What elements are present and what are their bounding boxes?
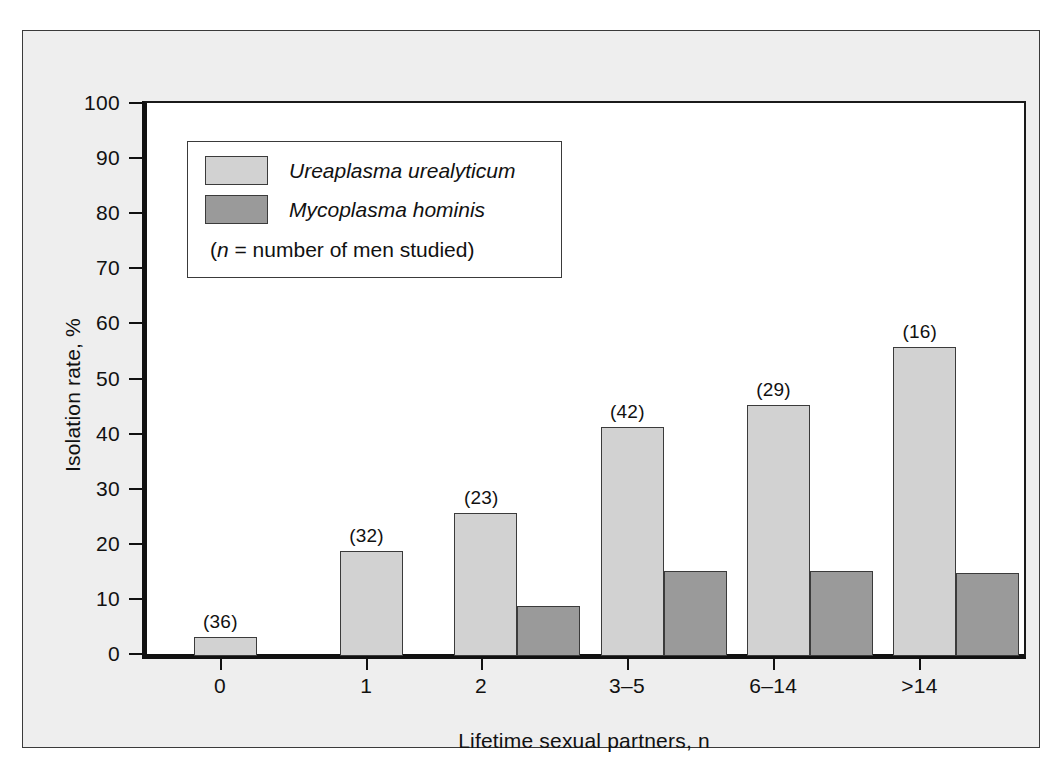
x-axis-title: Lifetime sexual partners, n (142, 729, 1026, 753)
x-axis-tick-mark (220, 659, 222, 670)
y-axis-tick: 40 (23, 421, 142, 447)
y-axis-tick-label: 30 (96, 477, 120, 501)
y-axis-tick-mark (129, 433, 142, 435)
bar-count-label: (42) (610, 401, 645, 423)
y-axis-tick: 90 (23, 145, 142, 171)
y-axis-tick-label: 0 (108, 642, 120, 666)
y-axis-tick-label: 100 (84, 91, 120, 115)
y-axis-tick-label: 10 (96, 587, 120, 611)
y-axis-tick-label: 90 (96, 146, 120, 170)
legend-note-suffix: = number of men studied) (229, 238, 475, 261)
bar-group: (29) (737, 105, 883, 656)
y-axis-ticks: 0102030405060708090100 (23, 101, 142, 659)
x-axis-tick-mark (366, 659, 368, 670)
bar-ureaplasma (601, 427, 664, 656)
y-axis-tick: 0 (23, 641, 142, 667)
y-axis-tick: 60 (23, 310, 142, 336)
bar-count-label: (36) (203, 611, 238, 633)
y-axis-tick: 80 (23, 200, 142, 226)
y-axis-tick: 20 (23, 531, 142, 557)
figure-container: Isolation rate, % 0102030405060708090100… (0, 0, 1064, 768)
y-axis-tick-mark (129, 378, 142, 380)
x-axis-tick-label: 2 (411, 674, 551, 698)
y-axis-tick-label: 40 (96, 422, 120, 446)
x-axis-tick-label: 0 (150, 674, 290, 698)
bar-count-label: (29) (756, 379, 791, 401)
bar-count-label: (16) (902, 321, 937, 343)
bar-ureaplasma (747, 405, 810, 656)
legend-note: (n = number of men studied) (210, 238, 474, 262)
x-axis-tick-label: >14 (849, 674, 989, 698)
y-axis-tick-mark (129, 653, 142, 655)
y-axis-tick-label: 80 (96, 201, 120, 225)
y-axis-tick-mark (129, 157, 142, 159)
bar-mycoplasma (810, 571, 873, 656)
y-axis-tick: 100 (23, 90, 142, 116)
x-axis-tick-label: 3–5 (557, 674, 697, 698)
bar-mycoplasma (956, 573, 1019, 656)
y-axis-tick-mark (129, 102, 142, 104)
y-axis-tick: 70 (23, 255, 142, 281)
bar-ureaplasma (194, 637, 257, 656)
bar-group: (16) (883, 105, 1029, 656)
x-axis-tick-mark (481, 659, 483, 670)
y-axis-tick-mark (129, 267, 142, 269)
legend-label-mycoplasma: Mycoplasma hominis (289, 198, 485, 222)
x-axis-tick-label: 6–14 (703, 674, 843, 698)
legend-row-0: Ureaplasma urealyticum (205, 156, 515, 185)
legend-label-ureaplasma: Ureaplasma urealyticum (289, 159, 515, 183)
y-axis-tick-label: 50 (96, 367, 120, 391)
y-axis-tick-label: 60 (96, 311, 120, 335)
x-axis-tick-mark (627, 659, 629, 670)
legend-swatch-ureaplasma (205, 156, 268, 185)
bar-ureaplasma (340, 551, 403, 656)
y-axis-tick-label: 20 (96, 532, 120, 556)
y-axis-tick-mark (129, 488, 142, 490)
y-axis-tick: 10 (23, 586, 142, 612)
y-axis-tick-mark (129, 543, 142, 545)
legend-row-1: Mycoplasma hominis (205, 195, 485, 224)
bar-count-label: (32) (349, 525, 384, 547)
legend-note-prefix: ( (210, 238, 217, 261)
bar-count-label: (23) (464, 487, 499, 509)
x-axis-tick-mark (919, 659, 921, 670)
y-axis-tick-label: 70 (96, 256, 120, 280)
x-axis-tick-mark (773, 659, 775, 670)
figure-frame: Isolation rate, % 0102030405060708090100… (22, 30, 1040, 748)
bar-group: (42) (591, 105, 737, 656)
bar-mycoplasma (664, 571, 727, 656)
y-axis-tick-mark (129, 212, 142, 214)
chart-legend: Ureaplasma urealyticum Mycoplasma homini… (187, 141, 562, 278)
bar-mycoplasma (517, 606, 580, 656)
legend-swatch-mycoplasma (205, 195, 268, 224)
y-axis-tick: 30 (23, 476, 142, 502)
legend-note-symbol: n (217, 238, 229, 261)
bar-ureaplasma (893, 347, 956, 656)
y-axis-tick: 50 (23, 366, 142, 392)
y-axis-tick-mark (129, 322, 142, 324)
bar-ureaplasma (454, 513, 517, 656)
y-axis-tick-mark (129, 598, 142, 600)
